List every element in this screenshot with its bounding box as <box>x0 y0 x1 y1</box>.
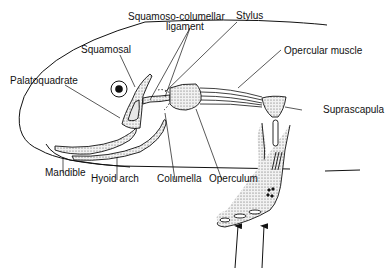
label-palatoquadrate: Palatoquadrate <box>10 75 78 86</box>
label-mandible: Mandible <box>45 167 86 178</box>
label-ligament: ligament <box>166 21 204 32</box>
label-stylus: Stylus <box>236 10 263 21</box>
label-operculum: Operculum <box>209 173 258 184</box>
label-hyoid-arch: Hyoid arch <box>91 173 139 184</box>
sound-arrows <box>235 226 264 268</box>
arrow-up-icon <box>235 226 238 268</box>
columella-bone <box>143 90 172 110</box>
operculum-bone <box>170 84 201 110</box>
mandible-bone <box>55 128 136 154</box>
opercular-muscle <box>200 88 262 107</box>
arrow-up-icon <box>262 226 264 268</box>
label-opercular-muscle: Opercular muscle <box>284 45 362 56</box>
suprascapula-bone <box>262 96 286 117</box>
label-suprascapula: Suprascapula <box>323 104 384 115</box>
label-squamosal: Squamosal <box>81 44 131 55</box>
eye-icon <box>111 81 127 97</box>
diagram-canvas <box>0 0 389 278</box>
label-columella: Columella <box>157 173 201 184</box>
